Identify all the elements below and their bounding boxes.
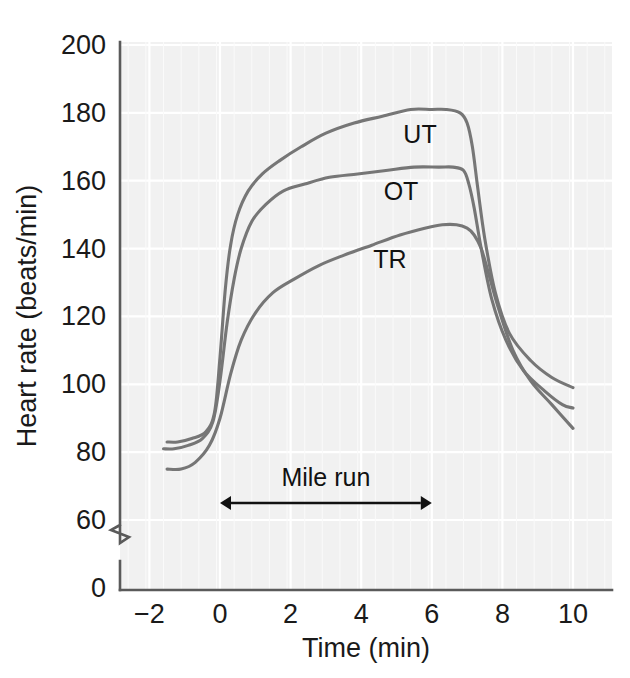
- y-tick-label: 120: [61, 301, 106, 331]
- y-tick-label: 0: [91, 573, 106, 603]
- series-label-ot: OT: [384, 177, 419, 205]
- x-axis-title: Time (min): [302, 633, 430, 663]
- x-tick-label: 10: [558, 599, 588, 629]
- x-tick-label: 6: [424, 599, 439, 629]
- x-tick-label: 8: [495, 599, 510, 629]
- x-tick-label: 2: [283, 599, 298, 629]
- x-axis-tick-labels: −20246810: [134, 599, 588, 629]
- chart-figure: 20018016014012010080600 −20246810 UTOTTR…: [0, 0, 630, 678]
- x-tick-label: 4: [354, 599, 369, 629]
- y-tick-label: 100: [61, 369, 106, 399]
- y-tick-label: 200: [61, 30, 106, 60]
- y-tick-label: 80: [76, 437, 106, 467]
- y-axis-tick-labels: 20018016014012010080600: [61, 30, 106, 603]
- series-label-ut: UT: [403, 120, 436, 148]
- y-tick-label: 180: [61, 98, 106, 128]
- x-tick-label: 0: [212, 599, 227, 629]
- series-label-tr: TR: [373, 245, 406, 273]
- mile-run-label: Mile run: [281, 463, 370, 491]
- x-tick-label: −2: [134, 599, 165, 629]
- y-tick-label: 160: [61, 166, 106, 196]
- y-tick-label: 60: [76, 505, 106, 535]
- heart-rate-line-chart: 20018016014012010080600 −20246810 UTOTTR…: [0, 0, 630, 678]
- y-tick-label: 140: [61, 234, 106, 264]
- y-axis-title: Heart rate (beats/min): [12, 185, 42, 448]
